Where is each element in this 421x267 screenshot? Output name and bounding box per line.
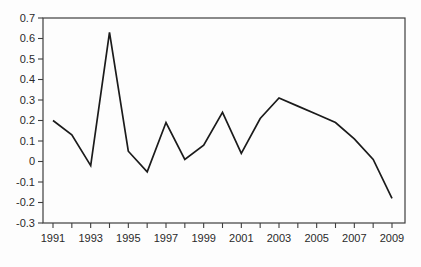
x-tick-label: 2003 xyxy=(267,232,291,244)
x-tick-label: 2009 xyxy=(380,232,404,244)
x-tick-label: 2001 xyxy=(229,232,253,244)
x-tick-label: 1995 xyxy=(116,232,140,244)
y-tick-label: -0.1 xyxy=(16,176,35,188)
y-tick-label: -0.3 xyxy=(16,217,35,229)
y-tick-label: 0.7 xyxy=(20,12,35,24)
y-tick-label: 0 xyxy=(29,155,35,167)
y-tick-label: 0.1 xyxy=(20,135,35,147)
y-tick-label: 0.5 xyxy=(20,53,35,65)
line-chart: 0.70.60.50.40.30.20.10-0.1-0.2-0.3199119… xyxy=(0,0,421,267)
x-tick-label: 2005 xyxy=(304,232,328,244)
y-tick-label: 0.4 xyxy=(20,73,35,85)
x-tick-label: 1991 xyxy=(41,232,65,244)
y-tick-label: 0.3 xyxy=(20,94,35,106)
y-tick-label: -0.2 xyxy=(16,196,35,208)
x-tick-label: 2007 xyxy=(342,232,366,244)
y-tick-label: 0.6 xyxy=(20,32,35,44)
x-tick-label: 1993 xyxy=(78,232,102,244)
y-tick-label: 0.2 xyxy=(20,114,35,126)
x-tick-label: 1997 xyxy=(154,232,178,244)
x-tick-label: 1999 xyxy=(191,232,215,244)
line-chart-figure: 0.70.60.50.40.30.20.10-0.1-0.2-0.3199119… xyxy=(0,0,421,267)
